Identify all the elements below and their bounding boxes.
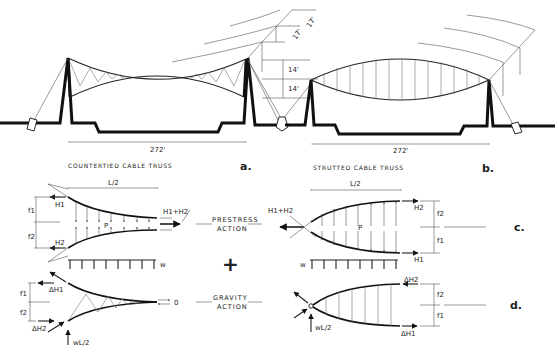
prestress-label: PRESTRESS bbox=[212, 216, 259, 224]
f1-label-d-right: f1 bbox=[437, 312, 444, 320]
p-label-c-left: P bbox=[104, 222, 108, 230]
reaction-label-d-left: wL/2 bbox=[73, 339, 89, 347]
p-label-c-right: P bbox=[358, 224, 362, 232]
f1-label-c-right: f1 bbox=[437, 237, 444, 245]
dh2-label-d-left: ΔH2 bbox=[32, 325, 47, 333]
load-w-left: w bbox=[68, 260, 166, 269]
dim-14-a: 14' bbox=[288, 66, 299, 74]
web-left-a bbox=[70, 62, 126, 86]
gravity-label: GRAVITY bbox=[213, 294, 248, 302]
lower-cable-b bbox=[311, 80, 489, 100]
w-label-right: w bbox=[300, 261, 306, 269]
f1-label-c-left: f1 bbox=[28, 207, 35, 215]
f2-label-d-left: f2 bbox=[20, 309, 27, 317]
h2-label-c-right: H2 bbox=[414, 204, 424, 212]
dim-14-b: 14' bbox=[288, 85, 299, 93]
zero-label-d-left: 0 bbox=[174, 299, 178, 307]
reaction-label-d-right: wL/2 bbox=[315, 324, 331, 332]
dim-17-a: 17' bbox=[291, 28, 304, 42]
h1-label-c-left: H1 bbox=[55, 201, 65, 209]
dh1-label-d-right: ΔH1 bbox=[401, 330, 416, 338]
dh1-label-d-left: ΔH1 bbox=[49, 286, 64, 294]
upper-cable-b bbox=[311, 59, 489, 80]
web-right-a bbox=[188, 62, 244, 86]
dim-17-b: 17' bbox=[305, 16, 318, 30]
load-w-right: w bbox=[300, 260, 398, 269]
prestress-action-label: ACTION bbox=[217, 225, 248, 233]
h2-label-c-left: H2 bbox=[55, 239, 65, 247]
ground-line-a bbox=[0, 58, 280, 132]
caption-a: COUNTERTIED CABLE TRUSS bbox=[68, 162, 172, 169]
letter-a: a. bbox=[240, 160, 252, 173]
figure-d-right-gravity: wL/2 ΔH2 ΔH1 f2 f1 d. bbox=[294, 276, 522, 338]
letter-d: d. bbox=[510, 299, 522, 312]
resultant-label-c-right: H1+H2 bbox=[268, 207, 293, 215]
resultant-label-c-left: H1+H2 bbox=[163, 208, 188, 216]
f2-label-d-right: f2 bbox=[437, 291, 444, 299]
f2-label-c-left: f2 bbox=[28, 233, 35, 241]
figure-c-left-prestress: L/2 P H1 H2 f1 f2 bbox=[28, 179, 190, 269]
caption-b: STRUTTED CABLE TRUSS bbox=[313, 164, 404, 171]
half-span-label-c-right: L/2 bbox=[350, 180, 361, 188]
figure-d-left-gravity: wL/2 ΔH1 ΔH2 f1 f2 0 bbox=[20, 272, 178, 347]
figure-b-strutted-truss: 272' STRUTTED CABLE TRUSS b. bbox=[285, 15, 555, 175]
letter-b: b. bbox=[482, 162, 494, 175]
f1-label-d-left: f1 bbox=[20, 290, 27, 298]
gravity-action-label: ACTION bbox=[217, 303, 248, 311]
dh2-label-d-right: ΔH2 bbox=[404, 276, 419, 284]
span-label-a: 272' bbox=[150, 146, 165, 154]
figure-c-right-prestress: L/2 P H1+H2 H2 H1 bbox=[268, 180, 525, 269]
letter-c: c. bbox=[514, 221, 525, 234]
f2-label-c-right: f2 bbox=[437, 210, 444, 218]
w-label-left: w bbox=[160, 261, 166, 269]
anchor-left-a bbox=[27, 118, 37, 131]
cable-truss-diagram: 272' COUNTERTIED CABLE TRUSS a. 17' 17' … bbox=[0, 0, 559, 361]
half-span-label-c-left: L/2 bbox=[108, 179, 119, 187]
h1-label-c-right: H1 bbox=[414, 256, 424, 264]
plus-sign: + bbox=[222, 252, 239, 276]
anchor-right-b bbox=[511, 122, 522, 134]
figure-a-countertied-truss: 272' COUNTERTIED CABLE TRUSS a. bbox=[0, 58, 280, 173]
span-label-b: 272' bbox=[393, 147, 408, 155]
